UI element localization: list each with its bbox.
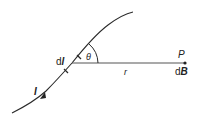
biot-savart-diagram: dl θ r P dB I (0, 0, 197, 120)
point-p-dot (183, 61, 186, 64)
label-r: r (124, 67, 128, 77)
label-p: P (178, 49, 185, 60)
label-dl: dl (56, 56, 65, 67)
label-theta: θ (86, 52, 91, 62)
label-current-i: I (34, 86, 37, 97)
element-tick-upper (77, 55, 81, 59)
label-db: dB (175, 66, 188, 77)
